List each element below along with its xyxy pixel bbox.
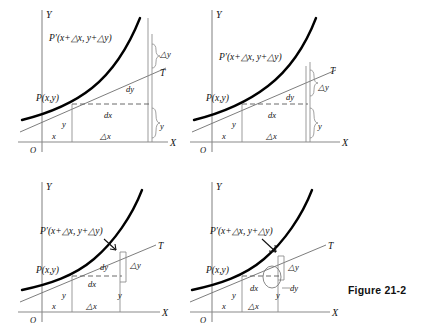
y-inner-label: y: [61, 290, 66, 300]
dx-label: dx: [104, 110, 112, 120]
delta-x-label: △x: [265, 131, 277, 141]
delta-y-label: △y: [159, 49, 171, 59]
x-axis-label: X: [169, 137, 177, 148]
origin-label: O: [200, 315, 206, 325]
panel-top-right: Y X O T P(x,y) P′(x+△x, y+△y) △y y dy dx…: [190, 9, 349, 155]
panel-bottom-left: Y X O T P(x,y) P′(x+△x, y+△y) △y dy dx y…: [18, 181, 169, 325]
y-inner-label: y: [231, 119, 236, 129]
figure-caption: Figure 21-2: [348, 284, 406, 296]
y-right-label: y: [117, 290, 122, 300]
dx-label: dx: [88, 279, 96, 289]
figure-21-2-svg: Y X O T P(x,y) P′(x+△x, y+△y) △y y dy dx…: [0, 0, 421, 336]
delta-x-label: △x: [85, 301, 97, 311]
delta-y-label: △y: [129, 260, 141, 270]
origin-label: O: [30, 145, 36, 155]
dy-label: dy: [290, 283, 298, 293]
function-curve: [22, 190, 142, 290]
tangent-label: T: [328, 241, 334, 251]
y-axis-label: Y: [216, 181, 223, 192]
point-p-prime-label: P′(x+△x, y+△y): [39, 226, 103, 237]
x-label: x: [221, 131, 226, 141]
origin-label: O: [200, 145, 206, 155]
panel-top-left: Y X O T P(x,y) P′(x+△x, y+△y) △y y dy dx…: [18, 9, 177, 155]
point-p-prime-label: P′(x+△x, y+△y): [48, 33, 112, 44]
x-label: x: [221, 301, 226, 311]
y-inner-label: y: [61, 119, 66, 129]
x-axis-label: X: [161, 307, 169, 318]
point-p-label: P(x,y): [205, 93, 229, 104]
point-p-prime-label: P′(x+△x, y+△y): [218, 52, 282, 63]
y-inner-label: y: [231, 290, 236, 300]
delta-y-brace: [152, 44, 160, 68]
figure-container: Y X O T P(x,y) P′(x+△x, y+△y) △y y dy dx…: [0, 0, 421, 336]
point-p-label: P(x,y): [35, 265, 59, 276]
panel-bottom-right: Y X O T P(x,y) P′(x+△x, y+△y) △y dy dx y…: [190, 181, 339, 325]
delta-y-label: △y: [317, 82, 329, 92]
dy-label: dy: [126, 84, 134, 94]
pointer-arrow-line: [262, 239, 276, 252]
delta-y-brace: [310, 70, 318, 96]
delta-x-label: △x: [99, 131, 111, 141]
y-axis-label: Y: [46, 181, 53, 192]
x-axis-label: X: [341, 137, 349, 148]
y-axis-label: Y: [216, 9, 223, 20]
origin-label: O: [30, 315, 36, 325]
dx-label: dx: [250, 283, 258, 293]
y-brace: [152, 108, 160, 138]
function-curve: [192, 190, 312, 290]
y-right-label: y: [317, 121, 322, 131]
y-axis-label: Y: [46, 9, 53, 20]
tangent-label: T: [160, 68, 166, 78]
x-label: x: [51, 131, 56, 141]
dy-label: dy: [100, 262, 108, 272]
point-p-label: P(x,y): [205, 265, 229, 276]
tangent-label: T: [330, 66, 336, 76]
dx-label: dx: [268, 110, 276, 120]
y-right-label: y: [275, 290, 280, 300]
point-p-prime-label: P′(x+△x, y+△y): [209, 226, 273, 237]
y-brace: [310, 108, 318, 138]
x-label: x: [51, 301, 56, 311]
delta-y-label: △y: [287, 262, 299, 272]
point-p-label: P(x,y): [35, 93, 59, 104]
delta-x-label: △x: [247, 301, 259, 311]
x-axis-label: X: [331, 307, 339, 318]
y-right-label: y: [159, 121, 164, 131]
dy-label: dy: [286, 92, 294, 102]
tangent-label: T: [158, 241, 164, 251]
